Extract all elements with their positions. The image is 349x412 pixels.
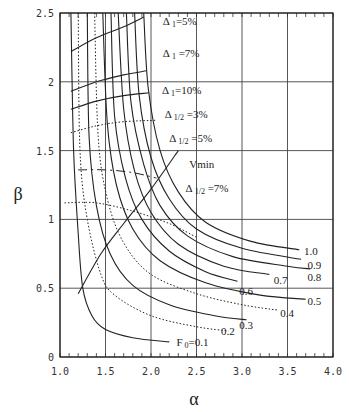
curve-label: 0.8 [308, 271, 322, 283]
y-tick-label: 0 [48, 352, 54, 363]
curve-label: F0=0.1 [176, 336, 208, 350]
curve-label: 0.7 [274, 274, 288, 286]
x-tick-label: 2.5 [187, 366, 205, 377]
x-tick-labels: 1.01.52.02.53.03.54.0 [51, 366, 342, 377]
curve-label: Δ1/2 =3% [165, 108, 208, 122]
data-curves [65, 13, 311, 342]
grid-lines [60, 13, 333, 357]
curve-label: Δ1/2 =5% [169, 132, 212, 146]
x-tick-label: 1.0 [51, 366, 69, 377]
curve--1-7- [71, 71, 146, 92]
curve-label: Δ1=5% [163, 15, 197, 29]
curve-0.5 [103, 13, 306, 299]
x-tick-label: 4.0 [324, 366, 342, 377]
x-axis-title: α [189, 389, 199, 409]
curve--1-10- [71, 93, 149, 110]
curve-label: 0.6 [239, 285, 253, 297]
y-tick-labels: 00.511.522.5 [36, 8, 54, 363]
curve-label: 1.0 [304, 245, 318, 257]
curve-label: 0.5 [308, 295, 322, 307]
x-tick-label: 3.0 [233, 366, 251, 377]
x-tick-label: 2.0 [142, 366, 160, 377]
chart-canvas: 1.01.52.02.53.03.54.0 00.511.522.5 Δ1=5%… [0, 0, 349, 412]
y-tick-label: 2 [48, 77, 54, 88]
curve-label: 0.9 [308, 259, 322, 271]
y-tick-label: 0.5 [36, 283, 54, 294]
curve-label: Δ1/2 =7% [186, 182, 229, 196]
curve--1-2-5- [78, 170, 156, 178]
curve-0.9 [135, 13, 302, 259]
y-axis-title: β [13, 184, 22, 204]
y-tick-label: 1.5 [36, 146, 54, 157]
x-tick-label: 1.5 [96, 366, 114, 377]
curve-label: Δ1 =7% [163, 47, 200, 61]
curve-label: 0.3 [239, 319, 253, 331]
curve-0.8 [126, 13, 310, 269]
x-tick-label: 3.5 [278, 366, 296, 377]
curve-label: 0.2 [221, 325, 235, 337]
curve-label: 0.4 [280, 307, 294, 319]
curve-label: Vmin [189, 158, 215, 170]
curve-Vmin [78, 151, 178, 294]
curve--1-5- [71, 17, 144, 51]
y-tick-label: 2.5 [36, 8, 54, 19]
y-tick-label: 1 [48, 214, 54, 225]
curve-label: Δ1=10% [162, 84, 201, 98]
